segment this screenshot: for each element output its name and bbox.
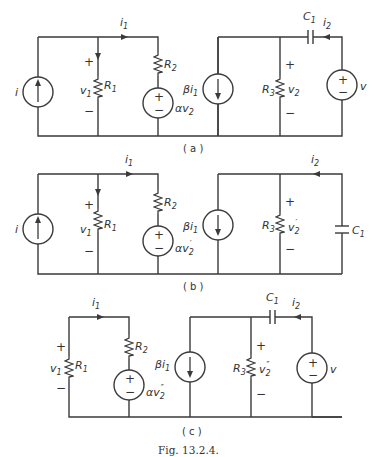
resistor-r2 — [125, 335, 133, 359]
svg-text:−: − — [308, 368, 318, 382]
capacitor-c1 — [270, 310, 275, 324]
svg-text:−: − — [56, 381, 66, 395]
arrow-left-icon — [294, 314, 301, 320]
panel-label-a: ( a ) — [183, 143, 203, 154]
svg-text:−: − — [285, 106, 295, 120]
label-c1: C1 — [352, 224, 365, 239]
label-r2: R2 — [164, 196, 177, 211]
arrow-right-icon — [121, 34, 128, 40]
panel-label-b: ( b ) — [183, 281, 204, 292]
label-r1: R1 — [75, 359, 88, 374]
svg-text:+: + — [285, 195, 295, 209]
label-beta-i1: βi1 — [182, 83, 198, 98]
dependent-current-source — [203, 210, 233, 240]
label-source-i: i — [15, 223, 18, 236]
label-i1: i1 — [125, 153, 133, 168]
label-r3: R3 — [262, 219, 275, 234]
svg-text:−: − — [154, 241, 164, 255]
resistor-r1 — [94, 208, 102, 232]
label-i1: i1 — [120, 16, 128, 31]
label-beta-i1: βi1 — [154, 358, 170, 373]
figure-caption: Fig. 13.2.4. — [158, 444, 219, 456]
label-i2: i2 — [292, 296, 300, 311]
svg-text:+: + — [285, 58, 295, 72]
label-i1: i1 — [92, 296, 100, 311]
resistor-r1 — [94, 76, 102, 100]
dependent-current-source — [175, 352, 205, 382]
svg-text:−: − — [154, 103, 164, 117]
label-vsrc: v — [360, 80, 367, 93]
label-v1: v1 — [50, 362, 62, 377]
current-source-i — [23, 77, 53, 107]
label-beta-i1: βi1 — [182, 220, 198, 235]
svg-text:−: − — [84, 244, 94, 258]
label-v2: v2 — [288, 83, 300, 98]
label-source-i: i — [15, 86, 18, 99]
label-r2: R2 — [135, 340, 148, 355]
panel-label-c: ( c ) — [182, 426, 202, 437]
label-vsrc: v — [330, 363, 337, 376]
label-r1: R1 — [104, 218, 117, 233]
resistor-r3 — [276, 212, 284, 236]
label-i2: i2 — [323, 16, 331, 31]
svg-text:+: + — [84, 198, 94, 212]
arrow-right-icon — [97, 314, 104, 320]
label-i2: i2 — [311, 153, 319, 168]
label-r2: R2 — [164, 58, 177, 73]
label-v1: v1 — [80, 223, 92, 238]
label-alpha-v2-dprime: αv2″ — [146, 384, 165, 401]
capacitor-c1 — [335, 226, 349, 233]
label-v2-prime: v2′ — [288, 219, 300, 236]
resistor-r3 — [247, 355, 255, 379]
arrow-right-icon — [126, 171, 133, 177]
svg-text:+: + — [56, 340, 66, 354]
minus-v1: − — [84, 104, 94, 118]
svg-text:+: + — [154, 228, 164, 242]
label-v2-dprime: v2″ — [259, 361, 271, 378]
label-r1: R1 — [104, 79, 117, 94]
arrow-down-icon — [95, 189, 101, 196]
label-c1: C1 — [266, 291, 279, 306]
svg-text:−: − — [256, 387, 266, 401]
svg-text:+: + — [125, 372, 135, 386]
panel-a: i + − v1 R1 i1 R2 + − αv2 βi1 + − R3 v2 — [15, 10, 367, 154]
label-alpha-v2-prime: αv2′ — [175, 240, 194, 257]
panel-b: i + − v1 R1 i1 R2 + − αv2′ βi1 + − R3 v2… — [15, 153, 365, 292]
svg-text:−: − — [338, 85, 348, 99]
resistor-r3 — [276, 76, 284, 100]
arrow-left-icon — [323, 34, 330, 40]
label-v1: v1 — [80, 84, 92, 99]
resistor-r2 — [154, 190, 162, 214]
svg-text:−: − — [285, 242, 295, 256]
circuit-figure: i + − v1 R1 i1 R2 + − αv2 βi1 + − R3 v2 — [0, 0, 374, 457]
label-r3: R3 — [233, 362, 246, 377]
svg-text:−: − — [125, 385, 135, 399]
arrow-down-icon — [95, 53, 101, 60]
label-r3: R3 — [262, 83, 275, 98]
arrow-left-icon — [313, 171, 320, 177]
label-alpha-v2: αv2 — [175, 102, 194, 117]
label-c1: C1 — [303, 10, 316, 25]
plus-v1: + — [84, 55, 94, 69]
resistor-r1 — [65, 356, 73, 380]
panel-c: + − v1 R1 i1 R2 + − αv2″ βi1 + − R3 v2″ … — [50, 291, 342, 437]
capacitor-c1 — [308, 30, 313, 44]
svg-text:+: + — [154, 90, 164, 104]
current-source-i — [23, 214, 53, 244]
resistor-r2 — [154, 52, 162, 76]
svg-text:+: + — [256, 339, 266, 353]
dependent-current-source — [203, 74, 233, 104]
